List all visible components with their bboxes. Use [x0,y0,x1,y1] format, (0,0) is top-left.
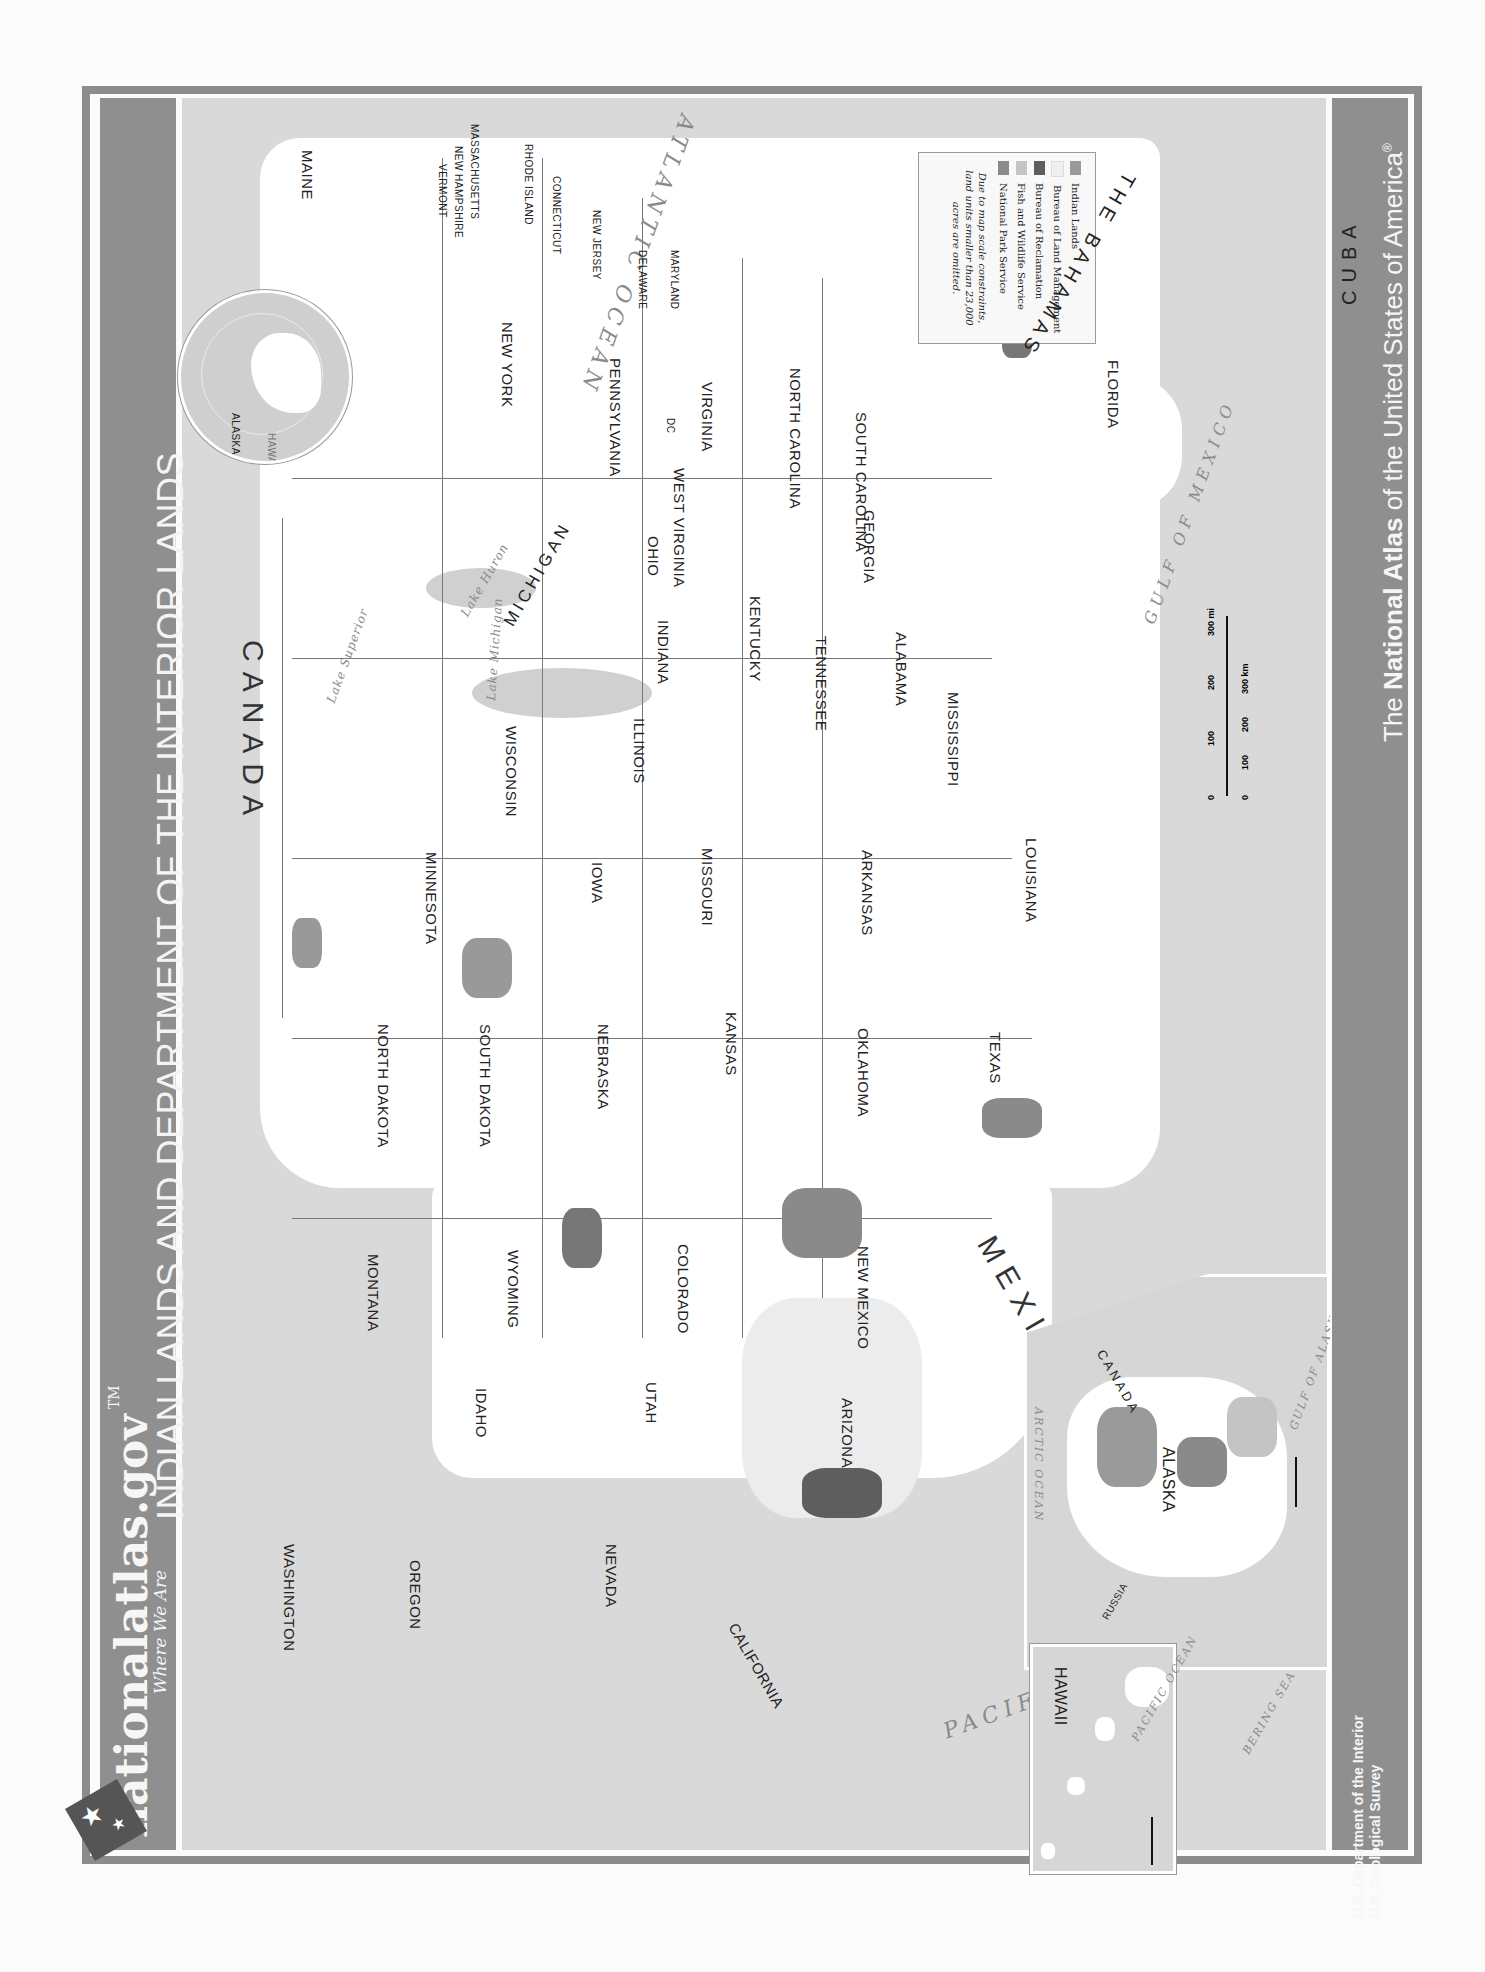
state-label: TEXAS [987,1032,1004,1084]
legend-swatch [1017,161,1028,175]
state-label: WEST VIRGINIA [671,468,688,588]
state-label: GEORGIA [861,510,878,584]
credit-doi: U.S. Department of the Interior [1350,1715,1367,1918]
state-label: ARIZONA [839,1398,856,1468]
state-label: MINNESOTA [423,852,440,945]
hawaii-inset[interactable]: HAWAII PACIFIC OCEAN [1030,1644,1176,1874]
state-label: OKLAHOMA [855,1028,872,1117]
maui [1095,1717,1115,1741]
atlas-footer-title: The National Atlas of the United States … [1378,143,1409,742]
state-label: NEW HAMPSHIRE [453,146,464,238]
scale-bar [1226,616,1228,796]
state-label: VERMONT [437,164,448,218]
state-label: MARYLAND [669,250,680,309]
state-label: WYOMING [505,1250,522,1329]
credit-usgs: U.S. Geological Survey [1367,1715,1384,1918]
state-label: PENNSYLVANIA [607,358,624,477]
state-label: VIRGINIA [699,382,716,452]
state-label: IDAHO [473,1388,490,1438]
state-label: MASSACHUSETTS [469,124,480,219]
state-label: WISCONSIN [503,726,520,817]
alaska-inset[interactable]: ALASKA CANADA ARCTIC OCEAN GULF OF ALASK… [1024,1274,1330,1670]
legend-swatch [1035,161,1046,175]
state-label: MONTANA [365,1254,382,1331]
state-label: IOWA [589,862,606,903]
logo-tagline: Where We Are [150,1570,170,1694]
star-icon: ★ [108,1812,130,1835]
atlas-name: National Atlas [1378,518,1408,690]
state-label: OHIO [645,536,662,576]
legend: Indian Lands Bureau of Land Management B… [918,152,1096,344]
state-label: NEVADA [603,1544,620,1608]
page-title: INDIAN LANDS AND DEPARTMENT OF THE INTER… [150,452,192,1520]
indian-land-area [462,938,512,998]
state-label: MISSOURI [699,848,716,926]
agency-credits: U.S. Department of the Interior U.S. Geo… [1350,1715,1384,1918]
oahu [1067,1777,1085,1795]
inset-label-hawaii: HAWAII [1051,1667,1069,1726]
hawaii-scale-bar [1151,1817,1153,1865]
florida-landmass [1062,378,1182,508]
country-label-cuba: CUBA [1338,217,1361,305]
state-label: ALABAMA [893,632,910,706]
state-label: NEW YORK [499,322,516,407]
state-label: SOUTH DAKOTA [477,1024,494,1147]
fws-area [1227,1397,1277,1457]
legend-item: National Park Service [995,161,1013,335]
state-label: TENNESSEE [813,636,830,731]
globe-label-alaska: ALASKA [230,413,241,455]
state-label: MAINE [299,150,316,200]
state-label: NORTH CAROLINA [787,368,804,509]
country-label-canada: CANADA [236,640,270,825]
state-label: MISSISSIPPI [945,692,962,787]
state-label: NORTH DAKOTA [375,1024,392,1148]
state-label: NEW MEXICO [855,1246,872,1349]
state-label: UTAH [643,1382,660,1424]
alaska-scale-bar [1295,1457,1297,1507]
state-label: KENTUCKY [747,596,764,682]
locator-globe: ALASKA HAWAII [178,290,352,464]
state-label: ILLINOIS [631,718,648,784]
inset-label-alaska: ALASKA [1159,1447,1177,1512]
state-label: KANSAS [723,1012,740,1076]
state-label: OREGON [407,1560,424,1630]
state-label: DELAWARE [637,250,648,309]
indian-land-area [292,918,322,968]
legend-swatch [1071,161,1082,175]
indian-land-area [782,1188,862,1258]
state-label: DC [665,418,676,433]
inset-label-arctic-ocean: ARCTIC OCEAN [1032,1407,1045,1522]
reclamation-area [802,1468,882,1518]
kauai [1041,1843,1055,1859]
state-label: INDIANA [655,620,672,684]
state-label: NEW JERSEY [591,210,602,280]
indian-land-area [1097,1407,1157,1487]
state-label: FLORIDA [1105,360,1122,429]
star-icon: ★ [75,1799,108,1833]
state-label: LOUISIANA [1023,838,1040,923]
legend-item: Fish and Wildlife Service [1013,161,1031,335]
nps-area [1177,1437,1227,1487]
globe-label-hawaii: HAWAII [266,433,277,464]
state-label: RHODE ISLAND [523,144,534,225]
legend-note: Due to map scale constraints, land units… [950,161,989,335]
state-label: ARKANSAS [859,850,876,936]
legend-swatch [1052,161,1065,177]
indian-land-area [562,1208,602,1268]
indian-land-area [982,1098,1042,1138]
state-label: COLORADO [675,1244,692,1334]
logo-trademark: TM [106,1385,122,1409]
legend-swatch [999,161,1010,175]
state-label: WASHINGTON [281,1544,298,1652]
state-label: NEBRASKA [595,1024,612,1110]
state-label: CONNECTICUT [551,176,562,254]
